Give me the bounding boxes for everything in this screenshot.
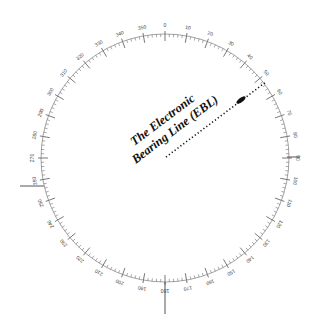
tick bbox=[67, 232, 69, 234]
bearing-label: 140 bbox=[245, 255, 255, 265]
tick bbox=[236, 256, 238, 258]
tick bbox=[56, 100, 59, 101]
tick bbox=[224, 51, 228, 57]
tick bbox=[268, 92, 271, 94]
tick bbox=[276, 207, 279, 208]
bearing-label: 110 bbox=[285, 199, 293, 209]
tick bbox=[198, 274, 199, 277]
tick bbox=[252, 72, 254, 74]
ebl-marker-icon bbox=[235, 95, 246, 105]
tick bbox=[266, 96, 272, 100]
bearing-diagram: 0102030405060708090100110120130140150160… bbox=[0, 0, 321, 331]
tick bbox=[111, 47, 112, 50]
bearing-label: 290 bbox=[36, 107, 45, 117]
tick bbox=[246, 66, 248, 68]
tick bbox=[131, 274, 132, 277]
tick bbox=[85, 63, 89, 68]
tick bbox=[265, 89, 267, 91]
tick bbox=[205, 41, 207, 48]
tick bbox=[240, 248, 244, 253]
tick bbox=[65, 229, 67, 231]
tick bbox=[233, 55, 235, 57]
tick bbox=[76, 72, 78, 74]
bearing-label: 340 bbox=[115, 29, 125, 38]
tick bbox=[103, 259, 107, 265]
tick bbox=[233, 258, 235, 260]
bearing-label: 190 bbox=[137, 285, 146, 292]
tick bbox=[60, 92, 63, 94]
tick bbox=[48, 116, 55, 118]
tick bbox=[143, 36, 144, 43]
tick bbox=[255, 233, 260, 237]
tick bbox=[229, 53, 231, 56]
tick bbox=[239, 60, 241, 62]
tick bbox=[47, 120, 50, 121]
tick bbox=[46, 191, 49, 192]
tick bbox=[62, 89, 64, 91]
bearing-label: 50 bbox=[263, 69, 271, 77]
tick bbox=[265, 226, 267, 228]
tick bbox=[111, 267, 112, 270]
tick bbox=[46, 124, 49, 125]
tick bbox=[45, 187, 48, 188]
bearing-label: 160 bbox=[205, 278, 215, 287]
tick bbox=[50, 112, 53, 113]
tick bbox=[52, 207, 55, 208]
tick bbox=[202, 273, 203, 276]
tick bbox=[194, 38, 195, 41]
tick bbox=[73, 239, 75, 241]
tick bbox=[89, 60, 91, 62]
tick bbox=[239, 253, 241, 255]
bearing-label: 280 bbox=[31, 130, 38, 139]
tick bbox=[280, 120, 283, 121]
bearing-label: 170 bbox=[183, 285, 192, 292]
tick bbox=[281, 191, 284, 192]
bearing-label: 0 bbox=[164, 22, 167, 28]
tick bbox=[255, 239, 257, 241]
tick bbox=[281, 124, 284, 125]
tick bbox=[260, 82, 262, 84]
bearing-label: 100 bbox=[292, 176, 299, 185]
tick bbox=[103, 51, 107, 57]
bearing-label: 90 bbox=[295, 155, 301, 161]
tick bbox=[92, 256, 94, 258]
tick bbox=[82, 248, 84, 250]
tick bbox=[194, 275, 195, 278]
tick bbox=[58, 96, 64, 100]
tick bbox=[65, 85, 67, 87]
tick bbox=[99, 261, 101, 264]
tick bbox=[79, 69, 81, 71]
tick bbox=[44, 183, 47, 184]
bearing-label: 70 bbox=[286, 109, 294, 116]
bearing-label: 250 bbox=[36, 198, 45, 208]
tick bbox=[123, 268, 125, 275]
tick bbox=[143, 273, 144, 280]
bearing-label: 200 bbox=[114, 278, 124, 287]
tick bbox=[58, 217, 64, 221]
tick bbox=[283, 132, 286, 133]
tick bbox=[123, 41, 125, 48]
tick bbox=[43, 136, 50, 137]
tick bbox=[73, 75, 75, 77]
tick bbox=[96, 55, 98, 57]
tick bbox=[275, 198, 282, 200]
bearing-label: 270 bbox=[29, 154, 35, 163]
tick bbox=[115, 45, 116, 48]
tick bbox=[190, 37, 191, 40]
tick bbox=[89, 253, 91, 255]
tick bbox=[43, 178, 50, 179]
bearing-label: 260 bbox=[31, 176, 38, 185]
tick bbox=[107, 49, 108, 52]
bearing-label: 80 bbox=[292, 132, 299, 139]
tick bbox=[127, 273, 128, 276]
tick bbox=[107, 265, 108, 268]
tick bbox=[139, 276, 140, 279]
tick bbox=[45, 128, 48, 129]
tick bbox=[272, 100, 275, 101]
tick bbox=[115, 269, 116, 272]
tick bbox=[131, 39, 132, 42]
tick bbox=[283, 183, 286, 184]
tick bbox=[252, 242, 254, 244]
tick bbox=[280, 178, 287, 179]
tick bbox=[96, 258, 98, 260]
